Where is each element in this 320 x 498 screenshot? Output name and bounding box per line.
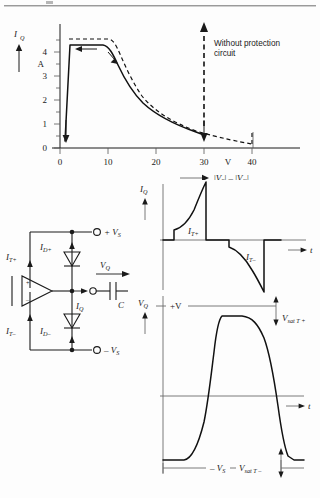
- label-id-minus: ID–: [39, 326, 51, 337]
- buffer-amplifier: + –: [12, 276, 72, 306]
- iv-characteristic-chart: 0 1 2 3 4 A I Q 0 10 20 30 40 V: [0, 8, 320, 180]
- wave-v-vsat-minus-label: Vsat T –: [239, 463, 262, 474]
- iv-y-unit: A: [38, 59, 45, 69]
- arrow-id-minus: [69, 336, 75, 343]
- wave-vq-label: VQ: [138, 298, 149, 309]
- iv-marker-30v: [200, 22, 208, 142]
- node-bottom: [70, 348, 75, 353]
- label-vq-group: VQ: [96, 260, 130, 277]
- iv-annotation-line1: Without protection: [214, 39, 280, 48]
- wave-v-trace: [163, 316, 304, 460]
- iv-y-arrow-head: [16, 44, 22, 51]
- current-waveform-chart: IQ t IT+ IT–: [139, 182, 313, 292]
- iv-y-label-main: I: [13, 29, 18, 39]
- wave-i-label-it-minus: IT–: [245, 252, 256, 263]
- iv-ytick-0: 0: [43, 143, 48, 153]
- label-cap: C: [118, 300, 125, 310]
- page-top-rule-shadow: [4, 6, 316, 7]
- iv-y-axis-label: I Q: [13, 29, 25, 72]
- wave-vq-arrow-head: [142, 312, 148, 318]
- arrow-iq: [72, 288, 88, 294]
- label-it-minus: IT–: [5, 326, 16, 337]
- wave-i-t-label: t: [310, 245, 313, 255]
- wave-i-trace: [163, 182, 281, 292]
- iv-ytick-4: 4: [43, 47, 48, 57]
- wave-v-minusvs-label: – VS: [209, 463, 225, 474]
- voltage-waveform-chart: VQ +V t – VS Vsat T –: [138, 296, 311, 478]
- label-id-plus: ID+: [39, 242, 52, 253]
- waveform-charts: IQ t IT+ IT– VQ +V: [126, 178, 320, 494]
- opamp-plus-input: +: [26, 279, 30, 286]
- wave-v-vsat-minus-arrows: [278, 448, 283, 478]
- iv-marker-up-arrowhead: [200, 22, 208, 32]
- iv-x-ticks: [60, 148, 252, 154]
- wave-v-t-arrow-head: [299, 403, 305, 408]
- iv-xtick-40: 40: [248, 157, 258, 167]
- iv-ytick-3: 3: [43, 71, 48, 81]
- label-iq: IQ: [75, 301, 84, 312]
- label-vs-plus: + VS: [104, 227, 121, 238]
- wave-i-label-it-plus: IT+: [187, 226, 199, 237]
- arrow-it-minus: [27, 314, 33, 321]
- iv-xtick-30: 30: [200, 157, 210, 167]
- iv-origin-down-arrow: [63, 120, 70, 143]
- terminal-output: [90, 288, 96, 294]
- label-vq: VQ: [100, 260, 111, 271]
- iv-y-ticks: [54, 40, 60, 148]
- wave-v-t-label: t: [308, 401, 311, 411]
- wave-v-vsat-plus-label: Vsat T +: [282, 313, 305, 324]
- wave-v-plusv-label: +V: [170, 301, 182, 311]
- node-top: [70, 230, 75, 235]
- iv-x-unit: V: [225, 157, 232, 167]
- terminal-vs-plus: [94, 229, 101, 236]
- arrow-it-plus: [27, 260, 33, 267]
- iv-ytick-1: 1: [43, 119, 48, 129]
- arrow-id-plus: [69, 242, 75, 249]
- iv-xtick-20: 20: [152, 157, 162, 167]
- protection-circuit-diagram: + VS – VS IT+ IT– + –: [0, 188, 140, 378]
- iv-xtick-10: 10: [104, 157, 114, 167]
- page-top-tick: [46, 1, 53, 4]
- terminal-vs-minus: [94, 347, 101, 354]
- iv-xtick-0: 0: [58, 157, 63, 167]
- wave-i-t-arrow-head: [301, 247, 307, 252]
- iv-ytick-2: 2: [43, 95, 48, 105]
- label-vs-minus: – VS: [103, 345, 119, 356]
- figure-page: 0 1 2 3 4 A I Q 0 10 20 30 40 V: [0, 0, 320, 498]
- iv-marker-down-arrowhead: [200, 133, 207, 142]
- label-it-plus: IT+: [5, 252, 17, 263]
- iv-curve-with-protection: [65, 45, 204, 141]
- wave-v-vsat-plus-arrows: [273, 296, 278, 326]
- wave-iq-arrow-head: [142, 198, 148, 204]
- wave-iq-label: IQ: [139, 184, 148, 195]
- iv-plateau-arrow: [75, 46, 97, 52]
- iv-annotation-line2: circuit: [214, 49, 236, 58]
- iv-y-label-sub: Q: [20, 34, 25, 41]
